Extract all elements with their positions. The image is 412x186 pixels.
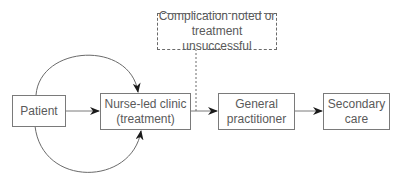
node-nurse-led-clinic: Nurse-led clinic (treatment): [100, 93, 191, 130]
node-gp-label-line1: General: [235, 97, 278, 112]
node-nurse-led-clinic-label-line2: (treatment): [116, 112, 175, 127]
edge-patient-to-clinic-top-arc: [36, 55, 138, 95]
node-complication-label-line1: Complication noted or: [159, 9, 276, 24]
node-secondary-care-label-line2: care: [345, 112, 368, 127]
edge-patient-to-clinic-bottom-arc: [35, 126, 141, 172]
node-complication-note: Complication noted or treatment unsucces…: [157, 13, 277, 50]
node-patient: Patient: [12, 95, 66, 127]
node-complication-label-line2: treatment unsuccessful: [158, 24, 276, 54]
node-secondary-care: Secondary care: [323, 93, 390, 130]
node-nurse-led-clinic-label-line1: Nurse-led clinic: [104, 97, 186, 112]
node-secondary-care-label-line1: Secondary: [328, 97, 385, 112]
node-general-practitioner: General practitioner: [218, 93, 295, 130]
flowchart-diagram: Patient Nurse-led clinic (treatment) Gen…: [0, 0, 412, 186]
node-patient-label: Patient: [20, 104, 57, 119]
node-gp-label-line2: practitioner: [227, 112, 286, 127]
